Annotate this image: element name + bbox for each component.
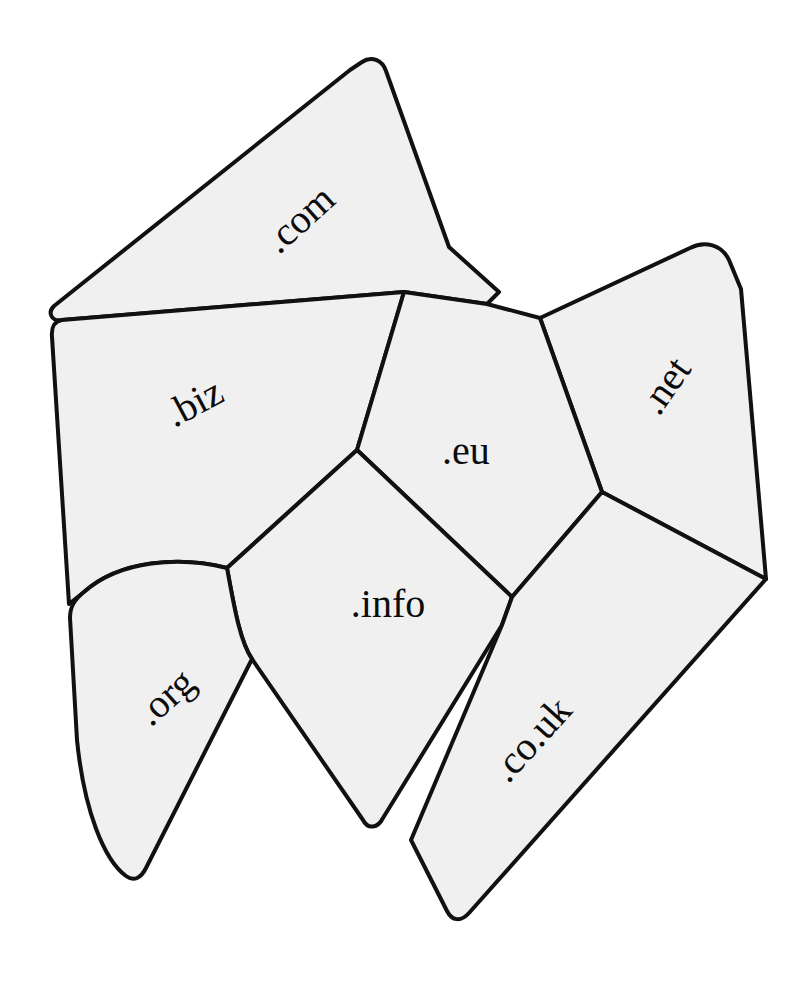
region-label-info: .info bbox=[351, 581, 425, 626]
regions-layer bbox=[51, 59, 766, 919]
region-com[interactable] bbox=[51, 59, 499, 320]
region-label-eu: .eu bbox=[442, 428, 490, 473]
tld-region-map: .com.biz.net.eu.info.org.co.uk bbox=[0, 0, 811, 992]
diagram-canvas: .com.biz.net.eu.info.org.co.uk bbox=[0, 0, 811, 992]
